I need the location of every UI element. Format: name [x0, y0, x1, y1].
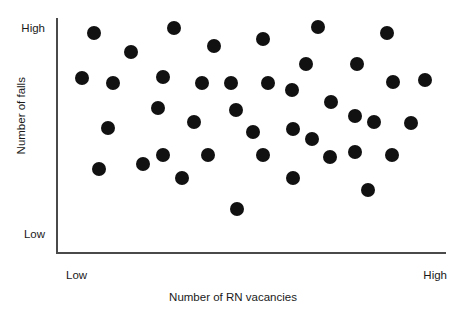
scatter-point: [136, 157, 150, 171]
scatter-point: [229, 103, 243, 117]
scatter-point: [167, 21, 181, 35]
scatter-point: [92, 162, 106, 176]
scatter-point: [324, 95, 338, 109]
scatter-point: [350, 57, 364, 71]
scatter-point: [224, 76, 238, 90]
scatter-point: [230, 202, 244, 216]
scatter-point: [311, 20, 325, 34]
scatter-point: [286, 122, 300, 136]
scatter-point: [175, 171, 189, 185]
scatter-point: [87, 26, 101, 40]
scatter-point: [156, 148, 170, 162]
scatter-point: [380, 26, 394, 40]
scatter-point: [299, 57, 313, 71]
scatter-point: [404, 116, 418, 130]
scatter-point: [348, 145, 362, 159]
scatter-point: [207, 39, 221, 53]
scatter-point: [323, 150, 337, 164]
scatter-point: [256, 32, 270, 46]
scatter-point: [195, 76, 209, 90]
scatter-point: [256, 148, 270, 162]
scatter-point: [156, 70, 170, 84]
scatter-point: [418, 73, 432, 87]
scatter-point: [305, 132, 319, 146]
scatter-point: [106, 76, 120, 90]
scatter-point: [386, 75, 400, 89]
scatter-point: [124, 45, 138, 59]
scatter-point: [246, 125, 260, 139]
scatter-point: [367, 115, 381, 129]
scatter-point: [75, 71, 89, 85]
scatter-points-layer: [0, 0, 466, 320]
scatter-point: [151, 101, 165, 115]
scatter-point: [348, 109, 362, 123]
scatter-point: [385, 148, 399, 162]
scatter-point: [286, 171, 300, 185]
scatter-point: [361, 183, 375, 197]
scatter-point: [101, 121, 115, 135]
scatter-point: [187, 115, 201, 129]
scatter-point: [261, 76, 275, 90]
scatter-point: [285, 83, 299, 97]
scatter-plot-figure: High Low Low High Number of falls Number…: [0, 0, 466, 320]
scatter-point: [201, 148, 215, 162]
